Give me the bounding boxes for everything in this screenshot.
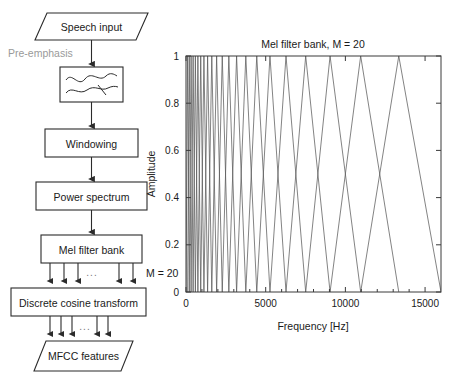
y-axis-title: Amplitude: [145, 151, 157, 198]
node-power-spectrum-label: Power spectrum: [54, 191, 130, 203]
node-pre-emphasis-filter-box: [60, 67, 123, 102]
mel-filter-22: [361, 56, 441, 292]
mel-filter-21: [330, 56, 399, 292]
node-discrete-cosine-transform: Discrete cosine transform: [11, 288, 146, 316]
x-axis-title: Frequency [Hz]: [277, 320, 348, 332]
y-axis-ticks: [186, 56, 441, 292]
x-tick-label: 15000: [411, 298, 439, 309]
mel-filter-20: [306, 56, 361, 292]
mel-filter-12: [217, 56, 229, 292]
node-power-spectrum: Power spectrum: [36, 182, 147, 210]
node-mfcc-features-label: MFCC features: [48, 350, 119, 362]
y-tick-label: 0.8: [165, 98, 179, 109]
x-tick-label: 10000: [331, 298, 359, 309]
mel-filter-15: [237, 56, 257, 292]
y-tick-label: 0.2: [165, 239, 179, 250]
mel-filter-11: [212, 56, 222, 292]
figure-mfcc-and-mel-filter-bank: Speech input Pre-emphasis Windowing: [0, 0, 456, 387]
node-mel-filter-bank-label: Mel filter bank: [59, 244, 125, 256]
y-tick-label: 1: [173, 51, 179, 62]
node-mfcc-features: MFCC features: [34, 341, 133, 371]
x-axis-ticks: [186, 56, 425, 292]
node-speech-input: Speech input: [35, 13, 148, 40]
node-mel-filter-bank: Mel filter bank: [41, 235, 142, 263]
y-tick-label: 0: [173, 287, 179, 298]
filter-traces: [186, 56, 441, 292]
x-axis-tick-labels: 050001000015000: [183, 298, 439, 309]
node-speech-input-label: Speech input: [61, 21, 122, 33]
y-tick-label: 0.6: [165, 145, 179, 156]
mel-filter-bank-chart: Mel filter bank, M = 20 050001000015000 …: [145, 38, 441, 332]
mel-filter-16: [246, 56, 270, 292]
chart-axes-frame: [186, 56, 441, 292]
mel-filter-19: [286, 56, 330, 292]
x-tick-label: 0: [183, 298, 189, 309]
y-axis-tick-labels: 00.20.40.60.81: [165, 51, 179, 298]
bus-label-m-equals-20: M = 20: [146, 267, 179, 279]
mel-filter-10: [208, 56, 217, 292]
mel-filter-14: [229, 56, 246, 292]
mel-filter-13: [222, 56, 236, 292]
chart-title: Mel filter bank, M = 20: [261, 38, 365, 50]
label-pre-emphasis: Pre-emphasis: [8, 47, 73, 59]
bus-ellipsis-dct-to-mfcc: ...: [79, 321, 90, 332]
node-windowing: Windowing: [45, 129, 138, 157]
node-windowing-label: Windowing: [66, 138, 118, 150]
node-dct-label: Discrete cosine transform: [19, 297, 138, 309]
mel-filter-17: [257, 56, 286, 292]
bus-ellipsis-mel-to-dct: ...: [86, 267, 97, 278]
y-tick-label: 0.4: [165, 192, 179, 203]
x-tick-label: 5000: [255, 298, 278, 309]
mel-filter-18: [270, 56, 306, 292]
